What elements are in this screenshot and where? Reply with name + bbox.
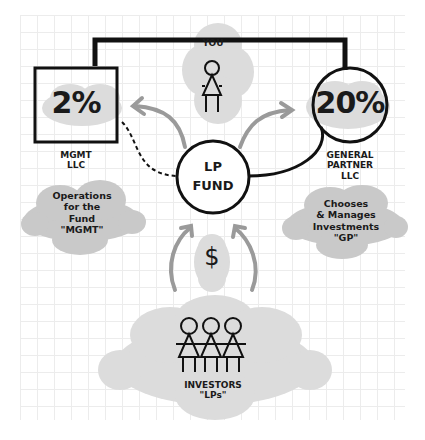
mgmt-description: Operations for the Fund "MGMT" — [40, 190, 124, 236]
investors-label: INVESTORS "LPs" — [165, 380, 261, 401]
gp-percent: 20% — [312, 86, 388, 121]
fund-mgmt-dashed-line — [122, 122, 178, 176]
you-label: YOU — [198, 38, 228, 48]
dollar-icon: $ — [197, 244, 227, 272]
arrow-money-right — [235, 228, 256, 290]
arrow-money-left — [171, 228, 190, 290]
lp-fund-label: LP FUND — [183, 158, 243, 196]
mgmt-percent: 2% — [35, 86, 117, 121]
mgmt-name: MGMT LLC — [40, 150, 112, 171]
gp-description: Chooses & Manages Investments "GP" — [300, 198, 392, 244]
gp-name: GENERAL PARTNER LLC — [312, 150, 388, 181]
